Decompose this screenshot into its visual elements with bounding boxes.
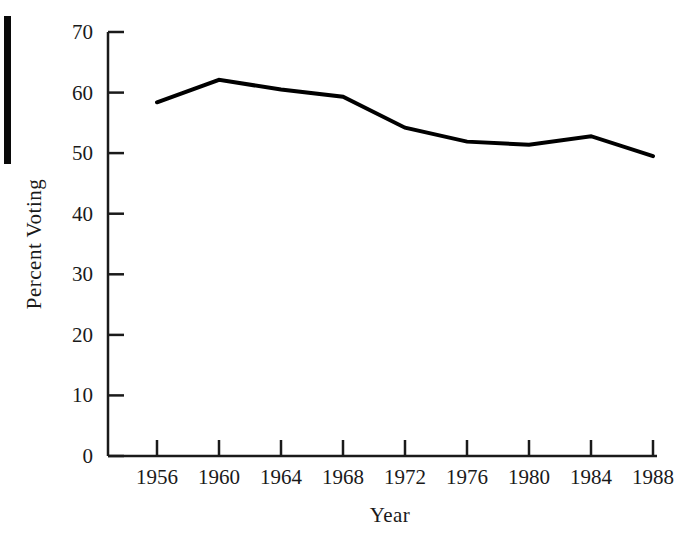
x-tick-marks <box>157 440 653 456</box>
x-tick-label-1976: 1976 <box>446 465 488 489</box>
x-tick-label-1960: 1960 <box>198 465 240 489</box>
y-tick-label-0: 0 <box>83 444 94 468</box>
x-tick-label-1980: 1980 <box>508 465 550 489</box>
x-tick-label-1972: 1972 <box>384 465 426 489</box>
y-tick-label-20: 20 <box>72 323 93 347</box>
y-tick-label-30: 30 <box>72 262 93 286</box>
x-tick-label-1968: 1968 <box>322 465 364 489</box>
line-chart: 70 60 50 40 30 20 10 0 1956 1960 1964 19… <box>0 0 697 550</box>
y-tick-label-70: 70 <box>72 20 93 44</box>
x-tick-label-1984: 1984 <box>570 465 613 489</box>
x-tick-label-1988: 1988 <box>632 465 674 489</box>
x-tick-label-1964: 1964 <box>260 465 303 489</box>
chart-page: 70 60 50 40 30 20 10 0 1956 1960 1964 19… <box>0 0 697 550</box>
y-tick-label-50: 50 <box>72 141 93 165</box>
x-tick-label-1956: 1956 <box>136 465 178 489</box>
y-axis-title: Percent Voting <box>22 179 46 309</box>
data-series-line <box>157 80 653 156</box>
y-tick-marks <box>108 32 124 456</box>
x-axis-title: Year <box>370 503 411 527</box>
y-tick-label-60: 60 <box>72 81 93 105</box>
y-tick-label-10: 10 <box>72 383 93 407</box>
y-tick-label-40: 40 <box>72 202 93 226</box>
